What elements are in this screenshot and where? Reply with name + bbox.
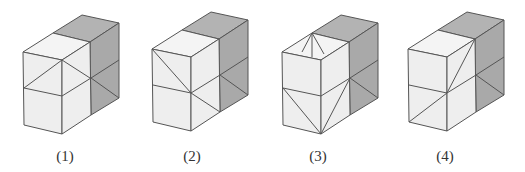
cube-figure-4	[408, 12, 504, 131]
cube-figure-3	[282, 15, 378, 134]
figure-label-2: (2)	[172, 148, 212, 165]
figure-label-4: (4)	[425, 148, 465, 165]
figure-canvas	[0, 0, 525, 172]
figure-label-1: (1)	[45, 148, 85, 165]
figure-label-3: (3)	[298, 148, 338, 165]
cube-figure-1	[23, 15, 119, 134]
cube-figure-2	[152, 12, 248, 131]
light-left-face	[282, 52, 321, 134]
light-left-face	[152, 49, 191, 131]
